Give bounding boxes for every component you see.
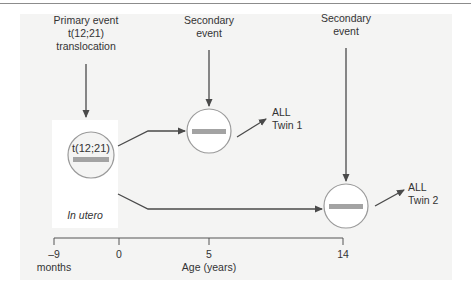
origin-cell	[68, 132, 114, 178]
secondary-event-1-label: Secondary event	[169, 14, 249, 40]
chromosome-bar	[329, 204, 363, 209]
secondary-event-2-label: Secondary event	[306, 12, 386, 38]
outcome-twin1-label: ALL Twin 1	[272, 106, 302, 132]
origin-cell-label: t(12;21)	[66, 142, 116, 154]
tick-label-5: 5	[194, 248, 224, 261]
branch-arrow-twin2	[118, 194, 322, 209]
outcome-arrow-twin2	[375, 190, 404, 206]
in-utero-label: In utero	[52, 209, 118, 222]
outcome-twin2-label: ALL Twin 2	[408, 181, 438, 207]
twin1-cell	[187, 109, 231, 153]
tick-label-minus9: –9	[39, 248, 69, 261]
time-axis	[54, 238, 343, 245]
axis-title: Age (years)	[169, 261, 249, 274]
primary-event-label: Primary event t(12;21) translocation	[36, 14, 136, 53]
twin2-cell	[324, 184, 368, 228]
axis-unit-months: months	[29, 261, 79, 274]
branch-arrow-twin1	[118, 131, 185, 146]
chromosome-bar	[73, 157, 109, 162]
tick-label-14: 14	[328, 248, 358, 261]
outcome-arrow-twin1	[237, 119, 266, 137]
tick-label-0: 0	[104, 248, 134, 261]
chromosome-bar	[192, 129, 226, 134]
